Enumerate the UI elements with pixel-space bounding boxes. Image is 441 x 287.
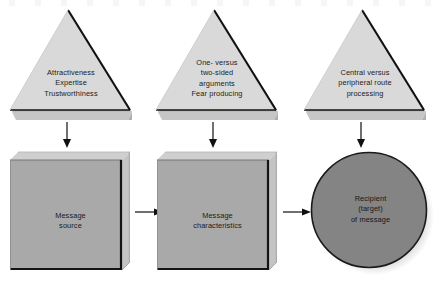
diagram-canvas: Attractiveness Expertise Trustworthiness… [0, 0, 441, 287]
triangle-recipient-factors: Central versus peripheral route processi… [300, 8, 430, 126]
node-message-characteristics: Message characteristics [155, 148, 285, 276]
node-recipient-of-message: Recipient (target) of message [308, 146, 439, 278]
triangle-recipient-factors-shape [300, 8, 430, 126]
node-recipient-of-message-label: Recipient (target) of message [312, 194, 429, 225]
scan-artifact [0, 0, 441, 6]
triangle-message-factors-label: One- versus two-sided arguments Fear pro… [152, 58, 282, 100]
node-message-source-label: Message source [10, 211, 131, 232]
triangle-message-factors: One- versus two-sided arguments Fear pro… [152, 8, 282, 126]
node-message-characteristics-label: Message characteristics [157, 211, 278, 232]
arrow-down-recipient [354, 122, 368, 149]
triangle-source-factors-label: Attractiveness Expertise Trustworthiness [6, 68, 136, 99]
arrow-down-message [206, 122, 220, 149]
arrow-down-source [60, 122, 74, 149]
triangle-source-factors: Attractiveness Expertise Trustworthiness [6, 8, 136, 126]
triangle-source-factors-shape [6, 8, 136, 126]
node-message-source: Message source [8, 148, 138, 276]
triangle-recipient-factors-label: Central versus peripheral route processi… [300, 68, 430, 99]
